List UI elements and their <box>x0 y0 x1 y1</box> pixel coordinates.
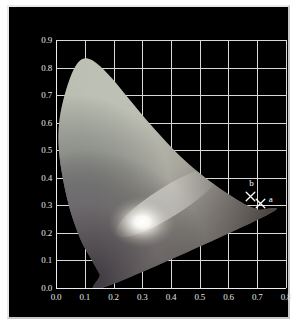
y-axis-tick-label: 0.1 <box>24 255 52 265</box>
cross-marker-icon <box>245 191 256 202</box>
y-axis-tick-label: 0.5 <box>24 145 52 155</box>
gridline-horizontal <box>56 288 286 289</box>
marker-label-b: b <box>249 179 254 188</box>
plot-area: 0.00.10.20.30.40.50.60.70.80.90.00.10.20… <box>56 40 286 288</box>
y-axis-tick-label: 0.4 <box>24 173 52 183</box>
gamut-svg <box>56 40 286 288</box>
spectral-locus-gamut <box>56 40 286 288</box>
marker-label-a: a <box>269 195 273 204</box>
data-point-marker-b[interactable] <box>245 191 256 202</box>
x-axis-tick-label: 0.3 <box>129 292 155 302</box>
x-axis-tick-label: 0.1 <box>72 292 98 302</box>
chromaticity-figure: 0.00.10.20.30.40.50.60.70.80.90.00.10.20… <box>0 0 306 336</box>
x-axis-tick-label: 0.2 <box>101 292 127 302</box>
x-axis-tick-label: 0.4 <box>158 292 184 302</box>
y-axis-tick-label: 0.8 <box>24 63 52 73</box>
gridline-vertical <box>286 40 287 288</box>
x-axis-tick-label: 0.6 <box>216 292 242 302</box>
y-axis-tick-label: 0.6 <box>24 118 52 128</box>
y-axis-tick-label: 0.9 <box>24 35 52 45</box>
plot-panel: 0.00.10.20.30.40.50.60.70.80.90.00.10.20… <box>7 5 290 319</box>
x-axis-tick-label: 0.8 <box>273 292 299 302</box>
cross-marker-icon <box>255 198 266 209</box>
data-point-marker-a[interactable] <box>255 198 266 209</box>
y-axis-tick-label: 0.3 <box>24 200 52 210</box>
gamut-fill <box>56 40 286 288</box>
y-axis-tick-label: 0.2 <box>24 228 52 238</box>
x-axis-tick-label: 0.0 <box>43 292 69 302</box>
y-axis-tick-label: 0.7 <box>24 90 52 100</box>
x-axis-tick-label: 0.7 <box>244 292 270 302</box>
x-axis-tick-label: 0.5 <box>187 292 213 302</box>
